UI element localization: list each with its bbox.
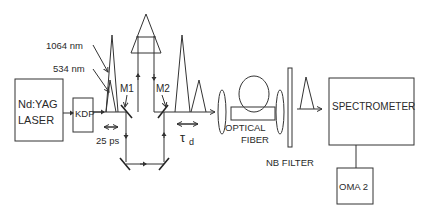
label-tau: τ [180,130,186,145]
pointer-m2 [162,95,166,107]
spectrometer-box: SPECTROMETER [329,78,415,145]
nb-filter [288,68,292,147]
label-oma2: OMA 2 [339,181,368,192]
label-fiber-line1: OPTICAL [225,122,266,133]
pulse-534nm [106,80,116,112]
label-spectrometer: SPECTROMETER [332,101,415,112]
label-m2: M2 [156,83,170,94]
pulse-output [300,77,314,109]
optical-setup-diagram: Nd:YAG LASER KDP 1064 nm 534 nm M1 25 ps… [0,0,428,219]
label-nb-filter: NB FILTER [266,157,314,168]
laser-label-line1: Nd:YAG [18,98,58,110]
pointer-1064nm [93,45,108,72]
pulse-delayed-1064 [175,35,190,112]
laser-box: Nd:YAG LASER [15,79,63,141]
optical-fiber-coil [231,76,275,120]
pointer-534nm [93,69,109,92]
label-534nm: 534 nm [53,63,85,74]
oma-detector-box: OMA 2 [337,168,373,204]
kdp-crystal: KDP [73,98,95,132]
pointer-m1 [125,95,127,107]
label-1064nm: 1064 nm [46,40,83,51]
laser-label-line2: LASER [18,114,54,126]
label-tau-subscript: d [189,137,194,147]
kdp-label: KDP [75,108,95,119]
retroreflector-prism [131,14,161,53]
label-25ps: 25 ps [96,135,119,146]
pulse-delayed-534 [191,80,206,112]
label-m1: M1 [120,83,134,94]
label-fiber-line2: FIBER [241,134,269,145]
lens-output [276,90,284,134]
